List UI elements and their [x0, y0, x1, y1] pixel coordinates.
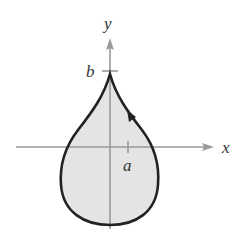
x-axis-label: x	[221, 138, 230, 157]
b-tick-label: b	[86, 62, 95, 81]
y-axis-label: y	[102, 14, 112, 33]
a-tick-label: a	[123, 156, 132, 175]
teardrop-diagram: x y b a	[0, 0, 238, 236]
